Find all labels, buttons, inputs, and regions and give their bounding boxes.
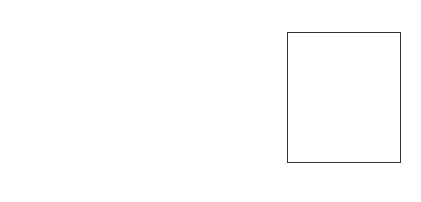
chart-legend [287,32,401,163]
pie-chart [0,0,280,202]
